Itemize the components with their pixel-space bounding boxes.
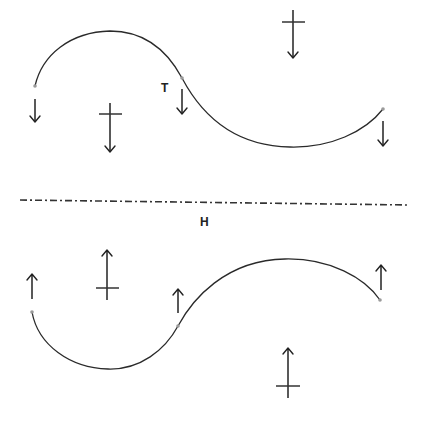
cross-arrow-up-icon <box>96 250 119 300</box>
cross-arrow-down-icon <box>282 10 305 58</box>
axis-label: H <box>200 215 209 229</box>
arrow-down-icon <box>378 121 388 146</box>
cross-arrow-up-icon <box>276 348 300 398</box>
arrow-up-icon <box>27 274 37 299</box>
upper-s-curve <box>35 31 383 147</box>
arrow-down-icon <box>30 99 40 122</box>
horizontal-axis-line <box>20 200 410 205</box>
upper-start-point <box>33 84 37 88</box>
lower-inflection-point <box>176 324 180 328</box>
upper-inflection-point <box>180 76 184 80</box>
lower-end-point <box>378 298 382 302</box>
lower-start-point <box>30 310 34 314</box>
diagram-svg: T H <box>0 0 422 423</box>
upper-end-point <box>381 107 385 111</box>
lower-s-curve <box>32 259 380 369</box>
arrow-up-icon <box>376 265 386 290</box>
tangent-label: T <box>161 81 169 95</box>
inflection-arrow-up-icon <box>173 289 183 313</box>
tangent-arrow-down-icon <box>177 89 187 114</box>
diagram-canvas: T H <box>0 0 422 423</box>
cross-arrow-down-icon <box>99 103 122 152</box>
